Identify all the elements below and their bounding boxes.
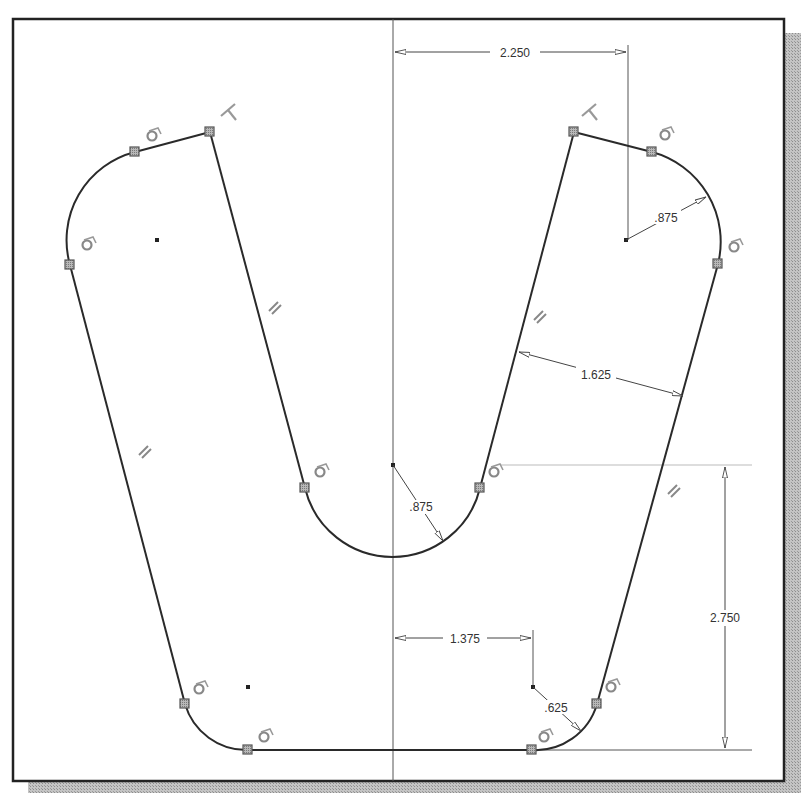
dimension-label[interactable]: .875 [654, 211, 678, 225]
point-left-lower[interactable] [180, 699, 189, 708]
center-point-bottom-left[interactable] [246, 685, 250, 689]
dimension-label[interactable]: 1.375 [450, 632, 480, 646]
center-point-top-left[interactable] [155, 238, 159, 242]
point-inner-left[interactable] [300, 483, 309, 492]
point-top-left-tangent[interactable] [130, 147, 139, 156]
dimension-label[interactable]: 2.250 [500, 46, 530, 60]
point-bottom-right[interactable] [527, 745, 536, 754]
point-inner-right[interactable] [475, 483, 484, 492]
point-left-upper[interactable] [65, 260, 74, 269]
sketch-canvas[interactable]: 2.250 .875 1.625 .875 2.750 1.375 .625 [0, 0, 803, 793]
point-top-right-corner[interactable] [569, 127, 578, 136]
dimension-label[interactable]: 1.625 [581, 368, 611, 382]
point-top-right-tangent[interactable] [647, 147, 656, 156]
point-top-left-corner[interactable] [205, 127, 214, 136]
point-right-lower[interactable] [592, 699, 601, 708]
frame-shadow-right [785, 33, 801, 793]
point-bottom-left[interactable] [243, 745, 252, 754]
frame-shadow-bottom [28, 782, 801, 793]
dimension-label[interactable]: 2.750 [710, 611, 740, 625]
point-right-upper[interactable] [713, 259, 722, 268]
dimension-label[interactable]: .875 [409, 500, 433, 514]
dimension-label[interactable]: .625 [544, 701, 568, 715]
